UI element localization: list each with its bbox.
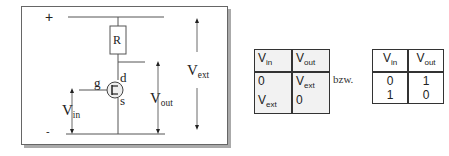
cell-vin-values: 0 1 [373,72,409,104]
header-vin: Vin [373,50,409,73]
truth-table-logic: Vin Vout 0 1 1 0 [372,49,444,104]
header-vout: Vout [408,50,444,73]
vout-label: Vout [150,91,173,109]
cell-vout-values: Vext 0 [292,72,330,114]
header-vin: Vin [255,50,293,73]
cell-vin-values: 0 Vext [255,72,293,114]
truth-table-voltage: Vin Vout 0 Vext Vext 0 [254,49,330,114]
separator-text: bzw. [333,73,353,85]
resistor-label: R [113,34,121,46]
source-label: s [120,94,125,107]
vext-label: Vext [187,63,209,81]
minus-label: - [46,126,50,137]
cell-vout-values: 1 0 [408,72,444,104]
header-vout: Vout [292,50,330,73]
drain-label: d [120,71,127,84]
plus-label: + [45,10,53,24]
vin-label: Vin [62,103,80,121]
gate-label: g [94,76,101,89]
